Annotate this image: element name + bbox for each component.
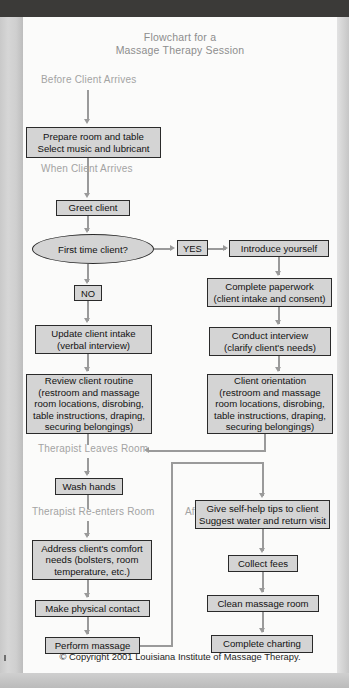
scan-right-gutter	[337, 17, 349, 688]
node-wash-hands[interactable]: Wash hands	[55, 478, 123, 495]
page-title-line-2: Massage Therapy Session	[23, 44, 337, 57]
connector-massage-right	[140, 645, 173, 647]
node-review-line-1: Review client routine	[45, 375, 134, 386]
node-orientation-line-3: room locations, disrobing,	[215, 398, 324, 409]
node-orientation-line-4: table instructions, draping,	[214, 410, 326, 421]
node-orientation-line-1: Client orientation	[234, 375, 306, 386]
node-first-time-client-decision[interactable]: First time client?	[32, 234, 154, 264]
copyright-notice: © Copyright 2001 Louisiana Institute of …	[23, 651, 337, 662]
node-selfhelp-line-1: Give self-help tips to client	[207, 503, 319, 514]
stage-label-when-client-arrives: When Client Arrives	[41, 163, 133, 175]
node-review-line-4: table instructions, draping,	[33, 410, 145, 421]
node-comfort-line-1: Address client's comfort	[41, 543, 143, 554]
arrowhead-into-paperwork	[275, 271, 281, 276]
arrowhead-into-review	[84, 367, 90, 372]
connector-before-to-prepare	[87, 90, 89, 121]
arrowhead-into-update	[84, 318, 90, 323]
arrowhead-into-interview	[275, 320, 281, 325]
page-title: Flowchart for a Massage Therapy Session	[23, 31, 337, 57]
arrowhead-into-introduce	[223, 245, 228, 251]
arrowhead-into-complete-charting	[259, 628, 265, 633]
node-make-physical-contact[interactable]: Make physical contact	[35, 600, 150, 617]
node-give-self-help-tips[interactable]: Give self-help tips to client Suggest wa…	[195, 500, 330, 529]
node-orientation-line-5: securing belongings)	[226, 421, 315, 432]
node-review-line-3: room locations, disrobing,	[34, 398, 143, 409]
node-client-orientation[interactable]: Client orientation (restroom and massage…	[207, 374, 333, 434]
scan-bottom-gutter	[0, 673, 349, 688]
arrowhead-into-wash-hands	[84, 471, 90, 476]
connector-after-stage-down	[262, 462, 264, 496]
node-paperwork-line-2: (client intake and consent)	[214, 293, 326, 304]
node-comfort-line-2: needs (bolsters, room	[46, 554, 139, 565]
node-introduce-yourself[interactable]: Introduce yourself	[229, 240, 329, 257]
arrowhead-into-prepare	[84, 119, 90, 124]
flowchart-page: Flowchart for a Massage Therapy Session …	[23, 17, 337, 673]
arrowhead-into-orientation	[275, 367, 281, 372]
stage-label-before-client-arrives: Before Client Arrives	[41, 74, 136, 86]
arrowhead-into-decision	[84, 228, 90, 233]
node-selfhelp-line-2: Suggest water and return visit	[199, 515, 326, 526]
node-update-line-2: (verbal interview)	[57, 340, 130, 351]
flowchart-canvas: Flowchart for a Massage Therapy Session …	[23, 17, 337, 673]
node-orientation-line-2: (restroom and massage	[219, 387, 320, 398]
scan-left-gutter	[0, 17, 23, 688]
node-address-client-comfort[interactable]: Address client's comfort needs (bolsters…	[32, 540, 152, 580]
branch-label-yes[interactable]: YES	[177, 240, 208, 256]
stage-label-therapist-reenters-room: Therapist Re-enters Room	[32, 506, 155, 518]
connector-massage-up	[171, 462, 173, 646]
node-clean-massage-room[interactable]: Clean massage room	[207, 595, 319, 612]
node-conduct-interview[interactable]: Conduct interview (clarify client's need…	[209, 327, 331, 356]
node-update-client-intake[interactable]: Update client intake (verbal interview)	[35, 325, 152, 354]
branch-label-no[interactable]: NO	[74, 285, 102, 301]
node-complete-paperwork[interactable]: Complete paperwork (client intake and co…	[207, 278, 332, 307]
node-paperwork-line-1: Complete paperwork	[225, 281, 314, 292]
node-prepare-line-1: Prepare room and table	[43, 131, 144, 142]
node-prepare-line-2: Select music and lubricant	[38, 143, 150, 154]
node-interview-line-1: Conduct interview	[232, 330, 308, 341]
arrowhead-into-clean-room	[259, 588, 265, 593]
arrowhead-into-no	[84, 279, 90, 284]
scan-top-band	[0, 0, 349, 17]
node-greet-client[interactable]: Greet client	[56, 200, 130, 216]
arrowhead-into-massage	[84, 630, 90, 635]
connector-orientation-down	[264, 434, 266, 451]
node-collect-fees[interactable]: Collect fees	[228, 555, 298, 572]
node-review-line-2: (restroom and massage	[38, 387, 139, 398]
arrowhead-into-contact	[84, 593, 90, 598]
node-review-line-5: securing belongings)	[45, 421, 134, 432]
arrowhead-into-collect-fees	[259, 548, 265, 553]
node-review-client-routine[interactable]: Review client routine (restroom and mass…	[26, 374, 152, 434]
arrowhead-into-comfort	[84, 533, 90, 538]
node-comfort-line-3: temperature, etc.)	[54, 566, 130, 577]
stage-label-therapist-leaves-room: Therapist Leaves Room	[38, 443, 148, 455]
arrowhead-into-greet	[84, 193, 90, 198]
scanned-page-viewport: Flowchart for a Massage Therapy Session …	[0, 0, 349, 688]
connector-massage-across-to-after-stage	[171, 462, 263, 464]
connector-orientation-left-to-stage	[149, 450, 266, 452]
node-interview-line-2: (clarify client's needs)	[224, 342, 316, 353]
page-title-line-1: Flowchart for a	[23, 31, 337, 44]
arrowhead-into-self-help-tips	[259, 493, 265, 498]
scan-edge-tick	[4, 655, 6, 661]
node-update-line-1: Update client intake	[51, 328, 135, 339]
node-prepare-room-and-table[interactable]: Prepare room and table Select music and …	[26, 127, 161, 158]
arrowhead-into-yes	[170, 245, 175, 251]
